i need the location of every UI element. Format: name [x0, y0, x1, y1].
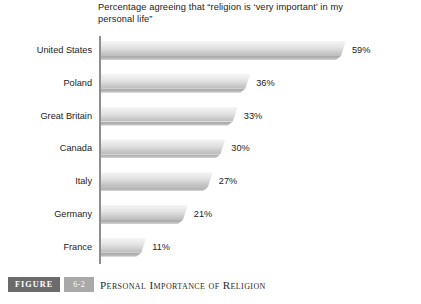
- bar-shadow: [101, 220, 188, 224]
- chart-title: Percentage agreeing that “religion is ‘v…: [98, 2, 366, 25]
- bar-row: Italy27%: [0, 167, 421, 200]
- category-label: France: [63, 242, 92, 252]
- bar-shadow: [101, 89, 251, 93]
- bar-shadow: [101, 122, 238, 126]
- bar-body: [101, 238, 147, 253]
- category-label: Poland: [63, 78, 92, 88]
- bar-shadow: [101, 154, 226, 158]
- bar-row: United States59%: [0, 36, 421, 69]
- category-label: Germany: [54, 209, 92, 219]
- bar-row: Canada30%: [0, 134, 421, 167]
- bar-body: [101, 107, 238, 122]
- figure-container: Percentage agreeing that “religion is ‘v…: [0, 0, 421, 304]
- bar-body: [101, 205, 188, 220]
- chart-title-line-2: personal life”: [98, 14, 366, 26]
- figure-number-badge: 6-2: [64, 277, 94, 292]
- bar-row: Poland36%: [0, 69, 421, 102]
- figure-caption-badges: FIGURE 6-2: [8, 277, 94, 292]
- value-label: 36%: [256, 78, 274, 88]
- bar: [101, 41, 346, 60]
- bar-body: [101, 139, 226, 154]
- figure-caption-title: Personal Importance of Religion: [100, 277, 266, 292]
- bar-rows: United States59%Poland36%Great Britain33…: [0, 34, 421, 266]
- bar-shadow: [101, 56, 346, 60]
- category-label: United States: [37, 45, 92, 55]
- value-label: 59%: [352, 45, 370, 55]
- plot-area: United States59%Poland36%Great Britain33…: [0, 34, 421, 266]
- bar-row: Great Britain33%: [0, 102, 421, 135]
- bar-row: Germany21%: [0, 200, 421, 233]
- chart-title-line-1: Percentage agreeing that “religion is ‘v…: [98, 2, 366, 14]
- value-label: 30%: [231, 143, 249, 153]
- bar: [101, 172, 213, 191]
- value-label: 21%: [194, 209, 212, 219]
- bar-shadow: [101, 253, 147, 257]
- category-label: Italy: [75, 176, 92, 186]
- value-label: 11%: [152, 242, 170, 252]
- bar-shadow: [101, 187, 213, 191]
- category-label: Great Britain: [40, 111, 92, 121]
- figure-label-badge: FIGURE: [8, 277, 60, 292]
- bar: [101, 238, 147, 257]
- bar-row: France11%: [0, 233, 421, 266]
- bar-body: [101, 74, 251, 89]
- bar: [101, 139, 226, 158]
- value-label: 33%: [244, 111, 262, 121]
- bar: [101, 107, 238, 126]
- value-label: 27%: [219, 176, 237, 186]
- category-label: Canada: [60, 143, 92, 153]
- bar-body: [101, 172, 213, 187]
- bar-body: [101, 41, 346, 56]
- bar: [101, 74, 251, 93]
- bar: [101, 205, 188, 224]
